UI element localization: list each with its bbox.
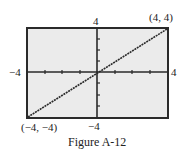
x-min-label: −4 <box>9 67 21 78</box>
figure-caption: Figure A-12 <box>68 136 126 148</box>
y-min-label: −4 <box>88 121 100 132</box>
point-label-top-right: (4, 4) <box>149 12 173 23</box>
point-label-bottom-left: (−4, −4) <box>21 122 57 133</box>
y-max-label: 4 <box>93 16 99 27</box>
x-max-label: 4 <box>171 67 177 78</box>
